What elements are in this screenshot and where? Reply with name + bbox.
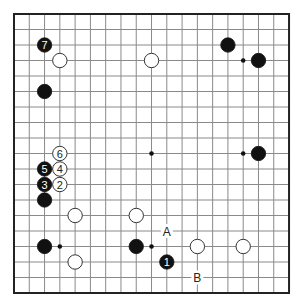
white-stone bbox=[68, 255, 82, 269]
white-stone bbox=[190, 239, 204, 253]
go-board: AB7654321 bbox=[0, 0, 301, 308]
move-number: 5 bbox=[41, 163, 47, 175]
black-stone bbox=[221, 38, 235, 52]
move-number: 7 bbox=[41, 39, 47, 51]
white-stone bbox=[129, 208, 143, 222]
star-point bbox=[241, 151, 246, 156]
move-number: 1 bbox=[164, 256, 170, 268]
star-point bbox=[58, 244, 63, 249]
move-number: 2 bbox=[57, 179, 63, 191]
white-stone bbox=[236, 239, 250, 253]
white-stone bbox=[53, 53, 67, 67]
star-point bbox=[149, 244, 154, 249]
black-stone bbox=[129, 239, 143, 253]
black-stone bbox=[251, 146, 265, 160]
point-label-b: B bbox=[193, 271, 201, 285]
star-point bbox=[149, 151, 154, 156]
black-stone bbox=[37, 239, 51, 253]
white-stone bbox=[144, 53, 158, 67]
black-stone bbox=[37, 84, 51, 98]
point-label-a: A bbox=[163, 225, 171, 239]
move-number: 3 bbox=[41, 179, 47, 191]
move-number: 4 bbox=[57, 163, 63, 175]
star-point bbox=[241, 58, 246, 63]
black-stone bbox=[37, 193, 51, 207]
move-number: 6 bbox=[57, 148, 63, 160]
black-stone bbox=[251, 53, 265, 67]
white-stone bbox=[68, 208, 82, 222]
